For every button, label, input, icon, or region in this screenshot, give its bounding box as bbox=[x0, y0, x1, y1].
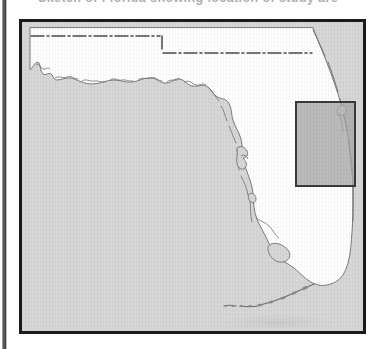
map-canvas bbox=[22, 22, 363, 331]
florida-map-graphic bbox=[22, 22, 363, 331]
study-area-rectangle[interactable] bbox=[296, 102, 355, 186]
map-frame bbox=[19, 19, 366, 334]
page-edge-shadow-artifact bbox=[2, 0, 7, 349]
figure-caption: Sketch of Florida showing location of st… bbox=[38, 0, 338, 5]
scanned-page-background: Sketch of Florida showing location of st… bbox=[0, 0, 382, 349]
